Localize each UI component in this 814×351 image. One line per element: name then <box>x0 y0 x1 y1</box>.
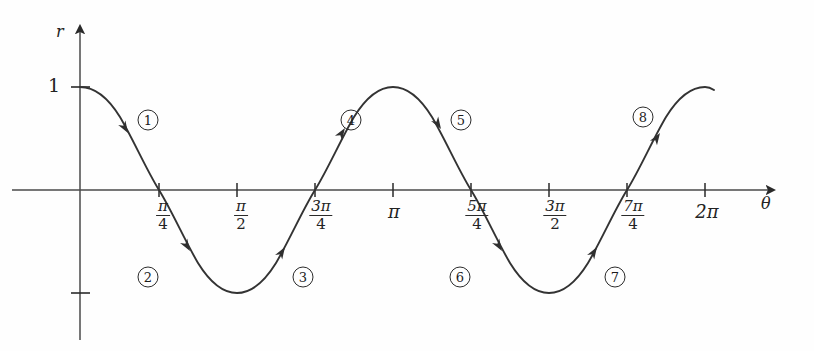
fraction-numerator: 5π <box>465 199 488 216</box>
fraction-numerator: 3π <box>543 199 566 216</box>
fraction-numerator: π <box>234 199 248 216</box>
segment-number-2: 2 <box>138 267 159 288</box>
direction-arrow-3 <box>275 245 288 260</box>
theta-tick-label-3pi-over-4: 3π 4 <box>309 199 332 232</box>
theta-tick-label-3pi-over-2: 3π 2 <box>543 199 566 232</box>
r-axis-label: r <box>56 22 64 41</box>
segment-number-3: 3 <box>293 267 314 288</box>
polar-curve-figure: r θ 1 π 4 π 2 3π 4 π 5π 4 3π 2 7π 4 2π 1… <box>0 0 814 351</box>
theta-tick-label-7pi-over-4: 7π 4 <box>621 199 644 232</box>
fraction-denominator: 4 <box>621 216 644 232</box>
theta-axis-label: θ <box>761 194 771 213</box>
r-tick-label-1: 1 <box>48 74 60 96</box>
segment-number-6: 6 <box>450 267 471 288</box>
theta-tick-label-pi: π <box>388 201 400 222</box>
segment-number-5: 5 <box>451 110 472 131</box>
segment-number-4: 4 <box>341 110 362 131</box>
theta-tick-label-2pi: 2π <box>695 201 718 222</box>
fraction-denominator: 4 <box>156 216 170 232</box>
direction-arrow-7 <box>587 245 600 260</box>
fraction-numerator: π <box>156 199 170 216</box>
theta-tick-label-5pi-over-4: 5π 4 <box>465 199 488 232</box>
theta-tick-label-pi-over-2: π 2 <box>234 199 248 232</box>
fraction-denominator: 4 <box>309 216 332 232</box>
plot-canvas <box>0 0 814 351</box>
fraction-denominator: 4 <box>465 216 488 232</box>
fraction-numerator: 7π <box>621 199 644 216</box>
fraction-numerator: 3π <box>309 199 332 216</box>
segment-number-7: 7 <box>605 267 626 288</box>
segment-number-1: 1 <box>138 110 159 131</box>
segment-number-8: 8 <box>633 107 654 128</box>
fraction-denominator: 2 <box>234 216 248 232</box>
fraction-denominator: 2 <box>543 216 566 232</box>
curve-direction-arrows <box>118 117 663 260</box>
theta-tick-label-pi-over-4: π 4 <box>156 199 170 232</box>
